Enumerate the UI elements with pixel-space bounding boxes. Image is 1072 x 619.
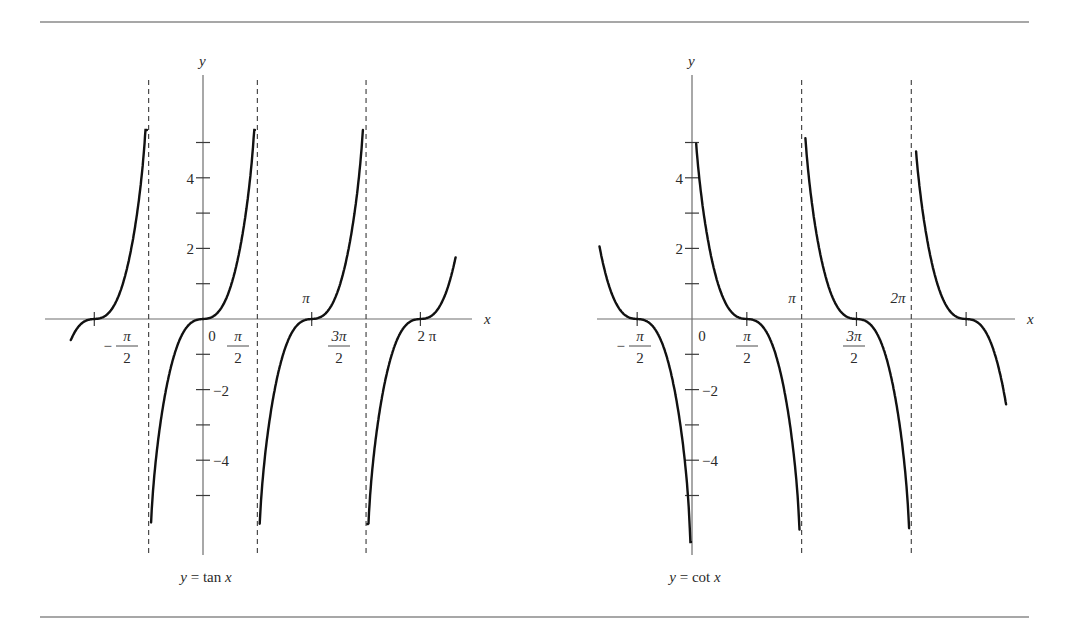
x-tick-label: 0 [698, 328, 706, 344]
svg-text:2: 2 [123, 350, 131, 366]
y-axis-label: y [197, 53, 206, 69]
y-tick-label: −2 [702, 383, 718, 399]
svg-text:−: − [617, 338, 625, 354]
y-tick-label: −4 [213, 453, 229, 469]
x-tick-label: 2 π [418, 328, 437, 344]
y-tick-label: 2 [187, 241, 195, 257]
y-axis-label: y [686, 53, 695, 69]
curve-branch [71, 130, 147, 340]
x-tick-label: 2π [890, 290, 906, 306]
x-tick-label: 0 [208, 328, 216, 344]
figure-canvas: xy42−2−4π2−0π2π3π22 πy = tan x xy42−2−4π… [0, 0, 1072, 619]
trig-graphs-figure: xy42−2−4π2−0π2π3π22 πy = tan x xy42−2−4π… [0, 0, 1072, 619]
plot-caption: y = tan x [178, 569, 232, 585]
y-tick-label: −2 [213, 383, 229, 399]
x-axis-label: x [1026, 311, 1034, 327]
tan-plot: xy42−2−4π2−0π2π3π22 πy = tan x [45, 53, 491, 585]
y-tick-label: 2 [676, 241, 684, 257]
x-tick-label-fraction: π2− [617, 328, 651, 366]
x-axis-label: x [483, 311, 491, 327]
curve-branch [260, 130, 363, 524]
x-tick-label: π [788, 290, 796, 306]
cot-plot: xy42−2−4π2−0π2π3π22πy = cot x [597, 53, 1034, 585]
plot-caption: y = cot x [667, 569, 721, 585]
svg-text:2: 2 [743, 350, 751, 366]
x-tick-label-fraction: 3π2 [328, 328, 350, 366]
svg-text:3π: 3π [330, 328, 347, 344]
x-tick-label: π [302, 290, 310, 306]
y-tick-label: 4 [676, 171, 684, 187]
x-tick-label-fraction: π2− [104, 328, 138, 366]
svg-text:3π: 3π [845, 328, 862, 344]
y-tick-label: −4 [702, 453, 718, 469]
svg-text:2: 2 [636, 350, 644, 366]
curve-branch [367, 257, 455, 524]
svg-text:2: 2 [335, 350, 343, 366]
curve-branch [600, 247, 692, 543]
curve-branch [916, 151, 1006, 404]
y-tick-label: 4 [187, 171, 195, 187]
svg-text:−: − [104, 338, 112, 354]
svg-text:π: π [123, 328, 131, 344]
svg-text:π: π [636, 328, 644, 344]
x-tick-label-fraction: π2 [736, 328, 758, 366]
x-tick-label-fraction: π2 [227, 328, 249, 366]
svg-text:2: 2 [850, 350, 858, 366]
svg-text:π: π [743, 328, 751, 344]
svg-text:π: π [234, 328, 242, 344]
x-tick-label-fraction: 3π2 [843, 328, 865, 366]
svg-text:2: 2 [234, 350, 242, 366]
